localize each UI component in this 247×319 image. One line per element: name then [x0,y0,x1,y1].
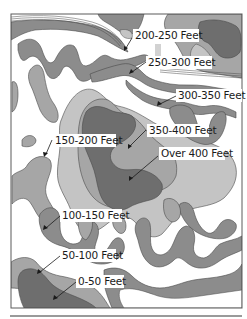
label-text: 0-50 Feet [78,275,126,287]
label-text: Over 400 Feet [161,147,233,159]
label-text: 50-100 Feet [62,249,123,261]
label-text: 250-300 Feet [148,56,215,68]
label-text: 150-200 Feet [55,134,122,146]
bottom-divider [10,315,242,317]
label-text: 350-400 Feet [149,124,216,136]
label-text: 300-350 Feet [178,89,245,101]
label-text: 200-250 Feet [135,29,202,41]
topographic-map: 200-250 Feet 250-300 Feet 300-350 Feet 3… [0,0,247,319]
label-text: 100-150 Feet [62,209,129,221]
